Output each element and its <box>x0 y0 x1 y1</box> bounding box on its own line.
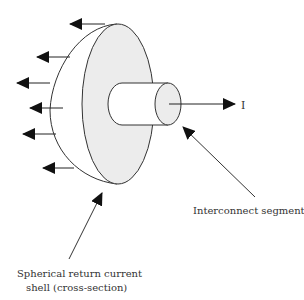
shell-label-line2: shell (cross-section) <box>26 282 127 293</box>
interconnect-label: Interconnect segment <box>193 205 304 216</box>
diagram-svg: I Interconnect segment Spherical return … <box>0 0 304 300</box>
diagram-canvas: I Interconnect segment Spherical return … <box>0 0 304 300</box>
shell-pointer-arrow <box>69 193 102 259</box>
interconnect-pointer-arrow <box>183 127 255 197</box>
current-label: I <box>241 99 245 112</box>
shell-label-line1: Spherical return current <box>17 268 142 279</box>
